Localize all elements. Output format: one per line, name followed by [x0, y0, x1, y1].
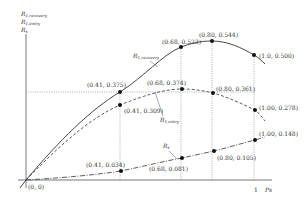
- label-ent-100: (1.00, 0.278): [259, 104, 298, 111]
- y-label-r1-entry: R1,entry: [20, 18, 41, 26]
- label-rec-080: (0.80, 0.544): [199, 31, 238, 38]
- curve-r1-entry: [26, 89, 265, 180]
- leader-rs: [169, 151, 177, 159]
- label-rs-068: (0.68, 0.081): [149, 165, 188, 172]
- label-rec-041: (0.41, 0.375): [87, 81, 126, 88]
- x-axis-label: Ps: [264, 186, 272, 193]
- leader-r1-recovery: [150, 61, 158, 67]
- label-rec-100: (1.0, 0.500): [259, 52, 294, 59]
- label-rs-100: (1.00, 0.148): [259, 130, 298, 137]
- curve-label-r1-recovery: R1,recovery: [132, 52, 160, 60]
- label-rs-080: (0.80, 0.105): [217, 154, 256, 161]
- y-label-r1-recovery: R1,recovery: [20, 10, 48, 18]
- label-ent-068: (0.68, 0.374): [147, 79, 186, 86]
- chart: R1,recovery R1,entry Rs (0.41, 0.375) (0…: [0, 0, 307, 201]
- curve-label-r1-entry: R1,entry: [159, 116, 180, 124]
- label-ent-041: (0.41, 0.309): [124, 107, 163, 114]
- y-label-rs: Rs: [20, 26, 28, 34]
- label-rs-041: (0.41, 0.034): [86, 161, 125, 168]
- label-ent-080: (0.80, 0.361): [216, 85, 255, 92]
- label-rec-068: (0.68, 0.523): [162, 38, 201, 45]
- origin-label: (0, 0): [28, 183, 44, 190]
- curve-label-rs: Rs: [162, 142, 170, 150]
- x-tick-1: 1: [254, 186, 258, 193]
